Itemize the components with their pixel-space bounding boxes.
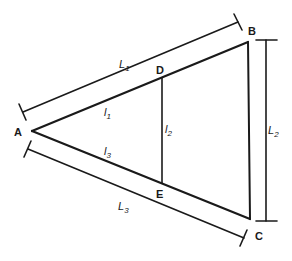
vertex-label-D: D [156, 64, 164, 76]
side-BC [248, 42, 250, 219]
similar-triangles-diagram: A B C D E l1 l2 l3 L1 L2 L3 [0, 0, 292, 261]
vertex-label-E: E [156, 188, 163, 200]
side-AC [32, 131, 250, 219]
dimension-L3 [24, 141, 247, 246]
dimension-label-L3: L3 [118, 200, 129, 215]
vertex-label-C: C [255, 230, 263, 242]
side-AB [32, 42, 248, 131]
segment-label-l2: l2 [165, 123, 172, 138]
dimension-L1 [19, 14, 242, 120]
segment-label-l3: l3 [104, 145, 111, 160]
dimension-label-L2: L2 [268, 124, 279, 139]
vertex-label-B: B [248, 25, 256, 37]
segment-label-l1: l1 [104, 106, 111, 121]
vertex-label-A: A [14, 126, 22, 138]
